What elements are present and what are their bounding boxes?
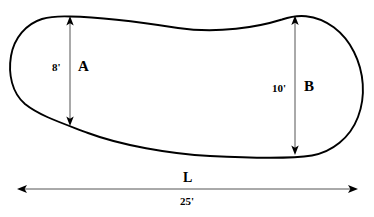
region-label-b: B xyxy=(304,79,314,94)
region-label-a: A xyxy=(78,59,89,74)
length-symbol-label: L xyxy=(183,171,192,185)
dimension-label-b-value: 10' xyxy=(272,83,286,94)
dimension-arrow-length xyxy=(17,185,358,193)
length-value-label: 25' xyxy=(180,196,194,207)
dimension-label-a-value: 8' xyxy=(52,62,61,73)
